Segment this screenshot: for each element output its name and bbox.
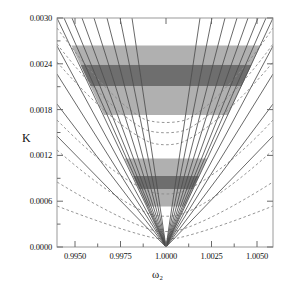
ytick-label-4: 0.0006 — [2, 196, 52, 206]
band-grey-2 — [90, 86, 241, 115]
xtick-label-4: 1.0050 — [233, 251, 281, 261]
ytick-label-0: 0.0030 — [2, 13, 52, 23]
ytick-label-2: 0.0018 — [2, 105, 52, 115]
xtick-label-0: 0.9950 — [51, 251, 99, 261]
xtick-label-1: 0.9975 — [97, 251, 145, 261]
figure-container: 0.0030 0.0024 0.0018 0.0012 0.0006 0.000… — [0, 0, 297, 292]
xtick-label-2: 1.0000 — [142, 251, 190, 261]
ytick-label-5: 0.0000 — [2, 242, 52, 252]
ytick-label-3: 0.0012 — [2, 150, 52, 160]
y-axis-title: K — [22, 131, 31, 146]
x-axis-title: ω₂ — [152, 268, 163, 280]
xtick-label-3: 1.0025 — [188, 251, 236, 261]
ytick-label-1: 0.0024 — [2, 59, 52, 69]
